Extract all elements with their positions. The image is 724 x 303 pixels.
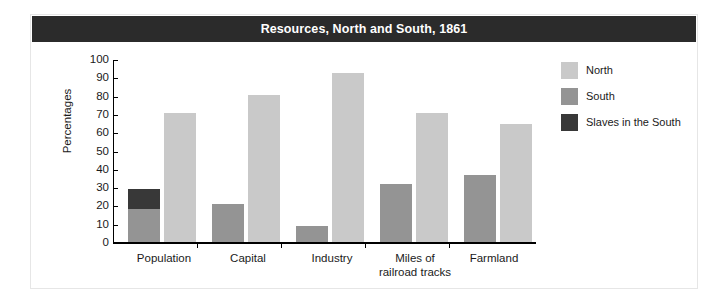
x-axis-label-line: Farmland [449, 251, 539, 265]
legend-item-south[interactable]: South [561, 83, 681, 109]
y-tick-90 [113, 78, 118, 79]
y-tick-80 [113, 97, 118, 98]
x-axis-label-farmland: Farmland [449, 251, 539, 265]
y-tick-label-70: 70 [75, 109, 109, 121]
x-axis-label-line: Population [119, 251, 209, 265]
y-tick-40 [113, 170, 118, 171]
legend-item-slaves-in-the-south[interactable]: Slaves in the South [561, 109, 681, 135]
bar-north-farmland[interactable] [500, 124, 532, 242]
legend-swatch-north [561, 62, 578, 79]
y-tick-label-0: 0 [75, 237, 109, 249]
y-tick-label-80: 80 [75, 91, 109, 103]
chart-figure: Resources, North and South, 1861 Percent… [30, 14, 698, 289]
legend-label-north: North [586, 64, 613, 76]
bar-group-capital [207, 60, 277, 242]
bar-south-farmland[interactable] [464, 175, 496, 242]
y-tick-label-50: 50 [75, 146, 109, 158]
x-axis-label-population: Population [119, 251, 209, 265]
bar-group-miles-of-railroad-tracks [375, 60, 445, 242]
y-tick-label-10: 10 [75, 219, 109, 231]
legend-item-north[interactable]: North [561, 57, 681, 83]
y-tick-20 [113, 206, 118, 207]
legend-swatch-slaves-in-the-south [561, 114, 578, 131]
plot-area: Percentages 100 90 80 70 60 50 40 30 20 … [31, 15, 699, 290]
x-group-tick-3 [365, 243, 366, 248]
bar-north-miles-of-railroad-tracks[interactable] [416, 113, 448, 242]
x-axis-label-capital: Capital [203, 251, 293, 265]
bar-north-population[interactable] [164, 113, 196, 242]
x-group-tick-1 [197, 243, 198, 248]
y-tick-60 [113, 133, 118, 134]
y-tick-label-100: 100 [75, 54, 109, 66]
x-axis-line [113, 242, 536, 244]
y-tick-30 [113, 188, 118, 189]
bar-south-industry[interactable] [296, 226, 328, 242]
y-tick-label-40: 40 [75, 164, 109, 176]
x-axis-label-line: Capital [203, 251, 293, 265]
y-tick-label-20: 20 [75, 200, 109, 212]
legend-swatch-south [561, 88, 578, 105]
legend-label-slaves-in-the-south: Slaves in the South [586, 116, 681, 128]
bar-north-industry[interactable] [332, 73, 364, 242]
y-tick-100 [113, 60, 118, 61]
y-tick-label-90: 90 [75, 72, 109, 84]
legend-label-south: South [586, 90, 615, 102]
y-tick-label-60: 60 [75, 127, 109, 139]
chart-legend: North South Slaves in the South [561, 57, 681, 135]
y-tick-label-30: 30 [75, 182, 109, 194]
y-tick-70 [113, 115, 118, 116]
bar-south-miles-of-railroad-tracks[interactable] [380, 184, 412, 242]
x-axis-label-line: railroad tracks [365, 265, 465, 279]
y-tick-50 [113, 152, 118, 153]
x-axis-label-industry: Industry [287, 251, 377, 265]
bar-group-industry [291, 60, 361, 242]
x-group-tick-4 [449, 243, 450, 248]
bar-group-farmland [459, 60, 529, 242]
y-tick-10 [113, 225, 118, 226]
bar-north-capital[interactable] [248, 95, 280, 242]
x-group-tick-2 [281, 243, 282, 248]
bar-group-population [123, 60, 193, 242]
y-tick-0 [113, 243, 118, 244]
bar-south-capital[interactable] [212, 204, 244, 242]
x-axis-label-line: Industry [287, 251, 377, 265]
bar-slaves-in-the-south-population[interactable] [128, 189, 160, 209]
